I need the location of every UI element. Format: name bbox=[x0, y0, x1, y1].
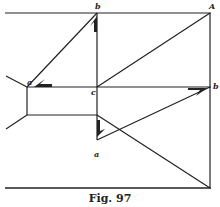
diagram-figure: b A a c b a bbox=[0, 0, 220, 207]
angle-marker-left-a bbox=[34, 79, 52, 87]
lower-left-stub bbox=[6, 115, 27, 129]
label-top-right-A: A bbox=[208, 1, 215, 11]
label-right-b: b bbox=[213, 81, 219, 91]
angle-marker-top-b bbox=[90, 16, 97, 32]
diagonal-box-corner-to-bottom-right bbox=[97, 115, 210, 188]
angle-marker-lower-a bbox=[97, 120, 105, 137]
label-top-b: b bbox=[95, 1, 101, 11]
diagonal-c-to-A bbox=[97, 13, 210, 87]
label-lower-a: a bbox=[94, 149, 99, 159]
figure-caption: Fig. 97 bbox=[0, 192, 220, 205]
upper-left-stub bbox=[6, 76, 27, 87]
diagonal-a-to-top-b bbox=[27, 13, 97, 87]
angle-marker-right-b bbox=[188, 88, 207, 96]
construction-lines bbox=[5, 13, 211, 188]
label-left-a: a bbox=[27, 77, 32, 87]
angle-markers bbox=[34, 16, 207, 137]
label-center-c: c bbox=[91, 87, 96, 97]
diagonal-lower-a-to-b bbox=[97, 87, 210, 140]
